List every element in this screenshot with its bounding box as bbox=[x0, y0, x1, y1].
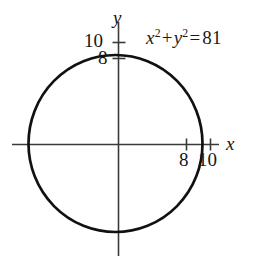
x-tick-label-8: 8 bbox=[179, 150, 189, 169]
equation-x-var: x bbox=[146, 27, 155, 48]
equation-y-var: y bbox=[174, 27, 183, 48]
y-tick-label-8: 8 bbox=[98, 48, 108, 67]
equation-x-exponent: 2 bbox=[155, 27, 161, 40]
equation-right-hand-side: 81 bbox=[201, 27, 222, 48]
x-axis-label: x bbox=[226, 134, 234, 153]
y-axis-label: y bbox=[113, 8, 121, 27]
equation-plus-sign: + bbox=[161, 27, 174, 48]
circle-graph-figure: y x 10 8 8 10 x2+y2=81 bbox=[0, 0, 260, 268]
circle-curve bbox=[29, 55, 203, 232]
equation-equals-sign: = bbox=[188, 27, 201, 48]
x-tick-label-10: 10 bbox=[198, 150, 217, 169]
equation-annotation: x2+y2=81 bbox=[146, 28, 223, 47]
